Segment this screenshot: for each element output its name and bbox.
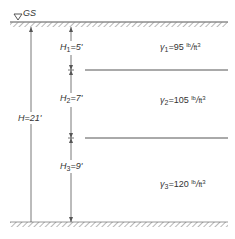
water-table-triangle-icon: [14, 14, 22, 20]
layer-3-unit-weight-label: γ3=120 lb/ft3: [160, 179, 206, 190]
ground-surface: [10, 22, 228, 27]
layer-1-height-label: H1=5': [60, 42, 82, 53]
layer-dimension-lines: [68, 27, 74, 222]
bottom-base: [10, 222, 228, 227]
layer-2-unit-weight-label: γ2=105 lb/ft3: [160, 95, 206, 106]
total-height-label: H=21': [18, 112, 42, 124]
total-height-dimension: [29, 27, 33, 222]
layer-3-height-label: H3=9': [60, 161, 82, 172]
layer-1-unit-weight-label: γ1=95 lb/ft3: [160, 42, 201, 53]
layer-2-height-label: H2=7': [60, 93, 82, 104]
ground-surface-label: GS: [23, 8, 36, 18]
